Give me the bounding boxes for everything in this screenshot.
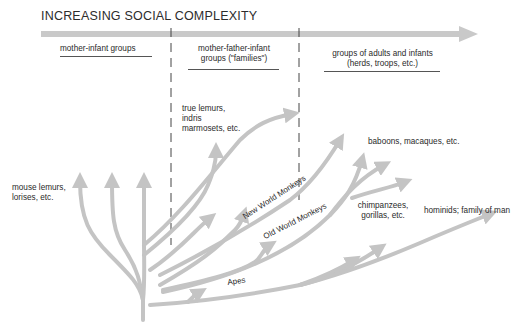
label-line: (herds, troops, etc.) [320, 59, 445, 69]
taxon-hominids: hominids; family of man [424, 206, 510, 216]
stage-mother-infant-label: mother-infant groups [60, 44, 136, 54]
label-line: mother-father-infant [184, 44, 284, 54]
label-line: mouse lemurs, [12, 183, 66, 193]
underline [324, 71, 440, 72]
underline [188, 69, 279, 70]
taxon-baboons: baboons, macaques, etc. [368, 137, 460, 147]
label-line: gorillas, etc. [348, 211, 418, 221]
stage-families-label: mother-father-infant groups ("families") [184, 44, 284, 64]
complexity-arrow [41, 26, 478, 42]
underline [60, 56, 152, 57]
taxon-mouse-lemurs: mouse lemurs, lorises, etc. [12, 183, 66, 203]
taxon-chimpanzees: chimpanzees, gorillas, etc. [348, 201, 418, 221]
label-line: chimpanzees, [348, 201, 418, 211]
label-line: groups ("families") [184, 54, 284, 64]
stage-groups-label: groups of adults and infants (herds, tro… [320, 49, 445, 69]
label-line: lorises, etc. [12, 193, 66, 203]
label-line: indris [182, 114, 240, 124]
label-line: true lemurs, [182, 104, 240, 114]
label-line: groups of adults and infants [320, 49, 445, 59]
taxon-true-lemurs: true lemurs, indris marmosets, etc. [182, 104, 240, 134]
label-line: marmosets, etc. [182, 124, 240, 134]
